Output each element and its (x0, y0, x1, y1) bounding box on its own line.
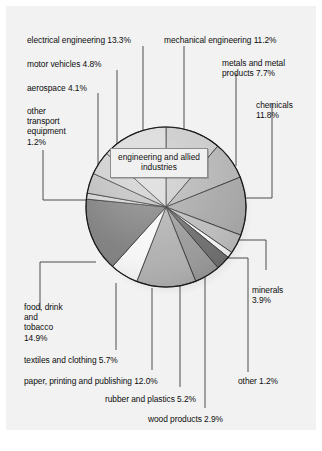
label-wood-products: wood products 2.9% (148, 414, 223, 424)
label-minerals: minerals 3.9% (252, 285, 283, 305)
label-rubber-and-plastics: rubber and plastics 5.2% (105, 394, 196, 404)
center-callout-engineering-and-allied-industries: engineering and allied industries (110, 148, 208, 178)
label-mechanical-engineering: mechanical engineering 11.2% (164, 35, 277, 45)
pie-chart-stage: mechanical engineering 11.2%metals and m… (0, 0, 322, 451)
figure-root: mechanical engineering 11.2%metals and m… (0, 0, 322, 451)
label-chemicals: chemicals 11.8% (256, 100, 293, 120)
label-electrical-engineering: electrical engineering 13.3% (27, 35, 131, 45)
label-other: other 1.2% (238, 376, 278, 386)
leader-other (224, 258, 248, 372)
label-metals-and-metal-products: metals and metal products 7.7% (222, 58, 285, 78)
label-motor-vehicles: motor vehicles 4.8% (27, 59, 101, 69)
label-food-drink-and-tobacco: food, drink and tobacco 14.9% (24, 302, 63, 343)
label-other-transport-equipment: other transport equipment 1.2% (27, 106, 66, 147)
label-textiles-and-clothing: textiles and clothing 5.7% (24, 355, 118, 365)
label-paper-printing-and-publishing: paper, printing and publishing 12.0% (24, 376, 158, 386)
label-aerospace: aerospace 4.1% (27, 83, 87, 93)
